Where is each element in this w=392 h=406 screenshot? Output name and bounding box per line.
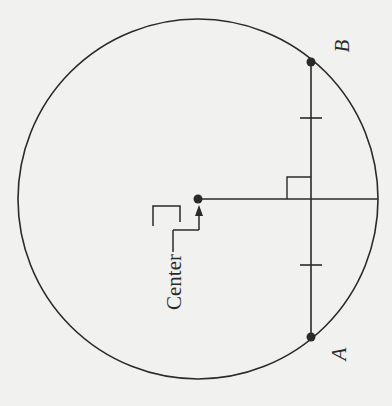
diagram-canvas: Center B A: [0, 0, 392, 406]
circle-chord-diagram: Center B A: [0, 0, 392, 406]
point-b-label: B: [330, 39, 354, 52]
right-angle-marker: [287, 177, 311, 199]
center-dot: [194, 195, 203, 204]
center-leader-line: [153, 206, 180, 226]
point-b-dot: [307, 58, 316, 67]
point-a-label: A: [327, 347, 351, 362]
center-label: Center: [162, 254, 186, 310]
point-a-dot: [307, 333, 316, 342]
center-leader-path: [152, 212, 199, 226]
